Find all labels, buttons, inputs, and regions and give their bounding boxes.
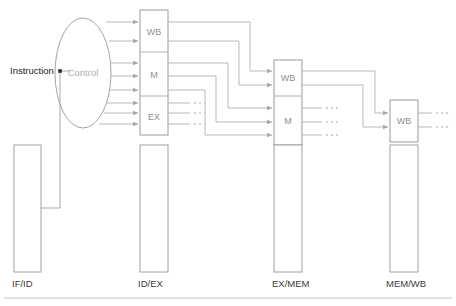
id-ex-register [140,145,168,272]
ex-mem-m-label: M [284,116,292,126]
ex-mem-control-blocks: WB M [274,60,302,145]
mem-wb-label: MEM/WB [386,278,426,289]
ex-mem-wb-label: WB [281,73,296,83]
id-ex-wb-label: WB [147,27,162,37]
pipeline-register-labels: IF/ID ID/EX EX/MEM MEM/WB [12,278,426,289]
control-unit-label: Control [68,67,99,78]
if-id-register [14,145,41,272]
id-ex-m-label: M [150,70,158,80]
id-ex-ex-label: EX [148,112,160,122]
pipeline-control-diagram: Control Instruction WB M EX [0,0,456,306]
mem-wb-control-blocks: WB [390,100,418,142]
diagram-canvas: Control Instruction WB M EX [0,0,456,306]
pipeline-registers [14,145,418,272]
mem-wb-register [390,145,418,272]
ex-mem-wb-output-wires [302,71,388,127]
id-ex-control-blocks: WB M EX [140,10,168,135]
mem-wb-wb-label: WB [397,116,412,126]
id-ex-label: ID/EX [138,278,163,289]
id-ex-ex-output-wires [168,102,206,125]
ex-mem-label: EX/MEM [272,278,310,289]
ex-mem-m-output-wires [302,107,338,136]
if-id-label: IF/ID [12,278,33,289]
ex-mem-register [274,145,302,272]
instruction-junction-dot [58,69,62,73]
mem-wb-wb-output-wires [418,112,448,128]
instruction-label: Instruction [10,65,54,76]
